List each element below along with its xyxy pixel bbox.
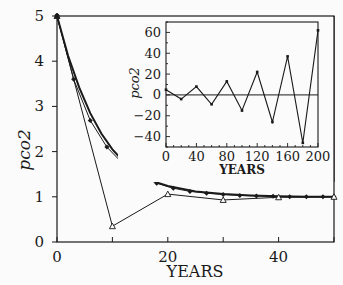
triangle-marker — [109, 223, 115, 229]
inset-y-tick-label: 60 — [144, 25, 161, 40]
inset-marker — [210, 103, 213, 106]
inset-marker — [302, 142, 305, 145]
inset-marker — [180, 98, 183, 101]
diamond-marker — [254, 193, 259, 198]
inset-x-tick-label: 120 — [245, 149, 270, 164]
inset-marker — [286, 55, 289, 58]
diamond-marker — [237, 193, 242, 198]
y-tick-label: 0 — [34, 233, 44, 251]
inset-x-axis-title: YEARS — [218, 163, 265, 177]
inset-marker — [256, 71, 259, 74]
inset-y-tick-label: 40 — [144, 46, 161, 61]
inset-marker — [195, 85, 198, 88]
inset-marker — [271, 121, 274, 124]
y-tick-label: 5 — [34, 7, 44, 25]
x-tick-label: 0 — [52, 248, 62, 266]
y-tick-label: 4 — [34, 52, 44, 70]
chart-figure: 02040 012345 YEARS pco2 04080120160200 −… — [0, 0, 343, 285]
inset-marker — [241, 109, 244, 112]
inset-plot: 04080120160200 −40−200204060 YEARS pco2 — [118, 16, 334, 182]
main-y-axis-title: pco2 — [14, 129, 34, 170]
y-tick-label: 1 — [34, 188, 44, 206]
x-tick-label: 40 — [269, 248, 288, 266]
main-y-ticks: 012345 — [34, 7, 57, 251]
inset-y-tick-label: 0 — [153, 87, 161, 102]
diamond-marker — [88, 118, 93, 123]
inset-x-tick-label: 80 — [219, 149, 236, 164]
inset-x-tick-label: 200 — [306, 149, 331, 164]
inset-marker — [317, 29, 320, 32]
inset-y-axis-title: pco2 — [127, 67, 142, 99]
inset-y-tick-label: −40 — [134, 129, 161, 144]
y-tick-label: 2 — [34, 143, 44, 161]
inset-y-tick-label: −20 — [134, 108, 161, 123]
inset-y-tick-label: 20 — [144, 67, 161, 82]
main-x-axis-title: YEARS — [166, 262, 224, 281]
inset-x-tick-label: 160 — [275, 149, 300, 164]
inset-x-tick-label: 0 — [162, 149, 170, 164]
y-tick-label: 3 — [34, 97, 44, 115]
inset-x-tick-label: 40 — [188, 149, 205, 164]
inset-marker — [165, 88, 168, 91]
inset-marker — [226, 80, 229, 83]
